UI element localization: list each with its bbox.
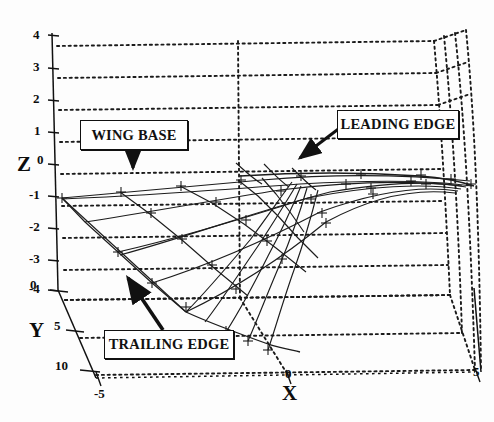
x-axis-label: X xyxy=(282,381,297,406)
grid-vline-x0 xyxy=(238,41,240,300)
z-tick-1: 1 xyxy=(34,123,41,139)
z-tick-neg1: -1 xyxy=(29,187,40,203)
mesh-aft-4 xyxy=(248,188,307,341)
z-tick-2: 2 xyxy=(33,91,40,107)
y-tick-0: 0 xyxy=(30,277,37,293)
annotation-trailing-edge-label: TRAILING EDGE xyxy=(109,336,230,353)
x-tick-0: 0 xyxy=(285,366,292,382)
z-tick-4: 4 xyxy=(33,27,40,43)
mesh-upper-2 xyxy=(120,183,466,255)
annotation-leading-edge: LEADING EDGE xyxy=(337,110,459,139)
z-tick-0: 0 xyxy=(37,152,44,168)
z-tick-neg3: -3 xyxy=(29,251,40,267)
z-tick-neg2: -2 xyxy=(29,219,40,235)
z-axis-spine xyxy=(52,33,58,290)
y-tick-10: 10 xyxy=(55,358,68,374)
y-axis-label: Y xyxy=(29,318,44,343)
grid-horizontal-back xyxy=(57,41,450,300)
annotation-leading-edge-label: LEADING EDGE xyxy=(341,116,456,133)
z-tick-3: 3 xyxy=(33,59,40,75)
mesh-node-markers xyxy=(57,169,476,355)
z-axis-label: Z xyxy=(17,152,31,177)
x-tick-neg5: -5 xyxy=(94,386,105,402)
annotation-wing-base: WING BASE xyxy=(80,120,188,150)
y-tick-5: 5 xyxy=(54,318,61,334)
plot-svg xyxy=(0,0,494,422)
mesh-rib-2 xyxy=(120,192,248,296)
x-tick-5: 5 xyxy=(473,364,480,380)
mesh-root-chord xyxy=(62,198,186,312)
wing-mesh xyxy=(62,163,474,352)
mesh-fan-b xyxy=(264,164,289,187)
figure-canvas: Z Y X 4 3 2 1 0 -1 -2 -3 -4 0 5 10 -5 0 … xyxy=(0,0,494,422)
annotation-trailing-edge: TRAILING EDGE xyxy=(104,330,234,359)
annotation-wing-base-label: WING BASE xyxy=(91,127,176,144)
grid-vertical-back xyxy=(238,41,240,300)
mesh-span-5 xyxy=(186,192,455,312)
